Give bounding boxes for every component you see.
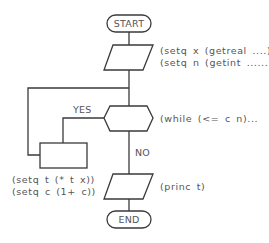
start-terminal: START	[107, 15, 151, 32]
process-code-line-1: (setq t (* t x))	[12, 174, 95, 185]
end-label: END	[118, 214, 139, 225]
yes-label: YES	[72, 104, 91, 115]
connector-yes-branch	[63, 118, 104, 143]
start-label: START	[114, 18, 144, 29]
loop-decision-hexagon	[104, 106, 153, 131]
flowchart-canvas: START (setq x (getreal ....) (setq n (ge…	[0, 0, 269, 243]
no-label: NO	[135, 147, 150, 158]
input-code-line-1: (setq x (getreal ....)	[160, 45, 269, 56]
process-code-line-2: (setq c (1+ c))	[12, 186, 96, 197]
end-terminal: END	[107, 211, 151, 228]
input-parallelogram	[104, 45, 153, 70]
input-code-line-2: (setq n (getint ......)	[160, 57, 269, 68]
output-code-label: (princ t)	[160, 181, 205, 192]
output-parallelogram	[104, 174, 153, 199]
process-box	[40, 143, 87, 168]
loop-condition-label: (while (<= c n)...	[160, 113, 258, 124]
